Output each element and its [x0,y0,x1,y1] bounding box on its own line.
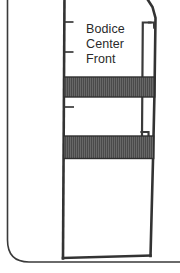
panel-left-edge [63,0,65,259]
label-line-3: Front [86,52,125,67]
trim-band-lower [64,136,154,159]
trim-band-upper [64,77,155,97]
pattern-illustration: Bodice Center Front [0,0,180,273]
label-line-2: Center [86,37,125,52]
pattern-piece-label: Bodice Center Front [86,22,125,67]
label-line-1: Bodice [86,22,125,37]
